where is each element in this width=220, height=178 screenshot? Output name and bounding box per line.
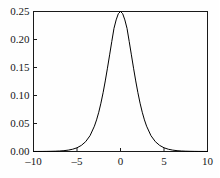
x-tick-label: –10 bbox=[14, 156, 54, 167]
plot-frame bbox=[34, 12, 208, 152]
x-tick-label: 5 bbox=[144, 156, 184, 167]
y-tick-label: 0.15 bbox=[10, 62, 29, 73]
tick-marks bbox=[34, 40, 165, 152]
y-tick-label: 0.25 bbox=[10, 6, 29, 17]
x-tick-label: 10 bbox=[188, 156, 220, 167]
figure-container: 0.000.050.100.150.200.25 –10–50510 bbox=[0, 0, 219, 178]
x-tick-label: 0 bbox=[101, 156, 141, 167]
y-tick-label: 0.10 bbox=[10, 90, 29, 101]
data-line-logistic-density bbox=[34, 12, 208, 152]
plot-canvas bbox=[0, 0, 219, 178]
y-tick-label: 0.20 bbox=[10, 34, 29, 45]
y-tick-label: 0.05 bbox=[10, 118, 29, 129]
x-tick-label: –5 bbox=[57, 156, 97, 167]
data-series-group bbox=[34, 12, 208, 152]
axes-frame bbox=[34, 12, 208, 152]
